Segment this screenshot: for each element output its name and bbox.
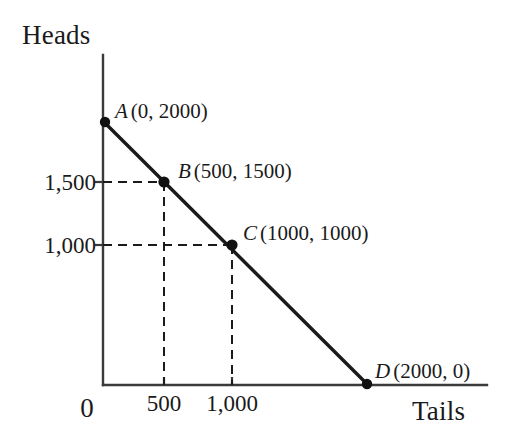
x-tick-label-1000: 1,000	[192, 392, 272, 415]
data-point-D	[362, 379, 372, 389]
chart-canvas: Heads Tails 1,500 1,000 0 500 1,000 A(0,…	[0, 0, 507, 440]
x-tick-label-origin: 0	[74, 395, 100, 422]
point-label-a-mark: A	[115, 99, 131, 123]
point-label-d-mark: D	[375, 359, 393, 383]
point-label-d-coords: (2000, 0)	[393, 359, 470, 383]
point-label-b: B(500, 1500)	[178, 161, 292, 182]
x-axis-title: Tails	[412, 398, 465, 425]
point-label-d: D(2000, 0)	[375, 361, 470, 382]
point-label-b-coords: (500, 1500)	[194, 159, 292, 183]
x-tick-label-500: 500	[134, 392, 194, 415]
point-label-b-mark: B	[178, 159, 194, 183]
data-point-B	[158, 176, 169, 187]
y-tick-label-1000: 1,000	[10, 234, 96, 257]
point-label-c-coords: (1000, 1000)	[260, 221, 369, 245]
y-axis-title: Heads	[22, 22, 90, 49]
data-point-C	[226, 239, 237, 250]
point-label-c: C(1000, 1000)	[243, 223, 369, 244]
point-label-c-mark: C	[243, 221, 260, 245]
point-label-a-coords: (0, 2000)	[131, 99, 208, 123]
point-label-a: A(0, 2000)	[115, 101, 208, 122]
y-tick-label-1500: 1,500	[10, 171, 96, 194]
data-point-A	[100, 117, 110, 127]
